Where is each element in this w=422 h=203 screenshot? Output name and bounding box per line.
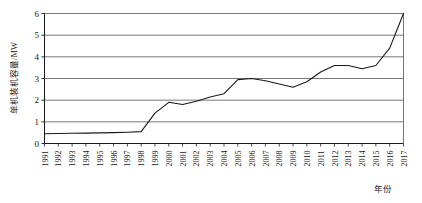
x-tick-label-2010: 2010 — [303, 151, 312, 167]
y-tick-label-3: 3 — [35, 74, 40, 84]
x-tick-label-2016: 2016 — [386, 151, 395, 167]
x-tick-label-2015: 2015 — [372, 151, 381, 167]
x-axis-tick-labels: 1991199219931994199519961997199819992000… — [41, 151, 409, 167]
x-axis-title: 年份 — [374, 184, 392, 194]
x-tick-label-2012: 2012 — [331, 151, 340, 167]
x-tick-label-2004: 2004 — [220, 151, 229, 167]
x-tick-label-1999: 1999 — [151, 151, 160, 167]
x-tick-label-2011: 2011 — [317, 151, 326, 167]
x-tick-label-1992: 1992 — [54, 151, 63, 167]
x-tick-label-2008: 2008 — [275, 151, 284, 167]
x-tick-label-1995: 1995 — [96, 151, 105, 167]
x-tick-label-2002: 2002 — [192, 151, 201, 167]
single-unit-capacity-line-chart: 0123456 19911992199319941995199619971998… — [0, 0, 422, 203]
x-tick-label-1997: 1997 — [123, 151, 132, 167]
y-tick-label-1: 1 — [35, 117, 40, 127]
x-tick-label-2001: 2001 — [179, 151, 188, 167]
x-tick-label-2006: 2006 — [248, 151, 257, 167]
data-series-line — [45, 14, 404, 134]
grid-lines — [45, 14, 404, 122]
x-tick-label-2007: 2007 — [262, 151, 271, 167]
chart-container: 0123456 19911992199319941995199619971998… — [0, 0, 422, 203]
y-tick-label-2: 2 — [35, 95, 40, 105]
y-axis-tick-labels: 0123456 — [35, 9, 40, 149]
x-tick-label-1991: 1991 — [41, 151, 50, 167]
x-tick-label-2003: 2003 — [206, 151, 215, 167]
x-tick-label-1994: 1994 — [82, 151, 91, 167]
y-tick-label-6: 6 — [35, 9, 40, 19]
x-tick-label-2013: 2013 — [344, 151, 353, 167]
x-tick-label-1998: 1998 — [137, 151, 146, 167]
x-tick-label-2000: 2000 — [165, 151, 174, 167]
y-tick-label-0: 0 — [35, 139, 40, 149]
y-axis-title: 单机装机容量/MW — [9, 42, 19, 114]
x-tick-label-1996: 1996 — [110, 151, 119, 167]
x-tick-label-2009: 2009 — [289, 151, 298, 167]
y-tick-label-4: 4 — [35, 52, 40, 62]
x-tick-label-2017: 2017 — [400, 151, 409, 167]
x-tick-label-2014: 2014 — [358, 151, 367, 167]
x-tick-label-1993: 1993 — [68, 151, 77, 167]
x-tick-label-2005: 2005 — [234, 151, 243, 167]
y-tick-label-5: 5 — [35, 30, 40, 40]
